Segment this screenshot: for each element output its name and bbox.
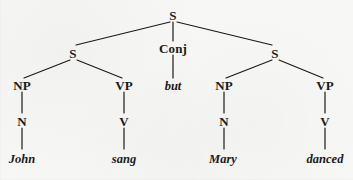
leaf-danced: danced	[307, 153, 344, 166]
edge-right-s-to-np	[226, 60, 272, 78]
node-right-n: N	[219, 115, 229, 128]
edge-root-to-right-s	[177, 22, 272, 45]
node-conj: Conj	[159, 42, 187, 55]
leaf-mary: Mary	[209, 153, 237, 166]
edge-left-s-to-np	[24, 60, 70, 78]
node-root-s: S	[169, 9, 176, 22]
edge-root-to-left-s	[76, 22, 170, 45]
node-left-n: N	[17, 115, 27, 128]
node-right-v: V	[320, 115, 330, 128]
node-right-vp: VP	[316, 79, 334, 92]
leaf-john: John	[9, 153, 35, 166]
node-right-np: NP	[215, 79, 233, 92]
syntax-tree-diagram: S S Conj S NP VP but NP VP N V N V John …	[0, 0, 353, 180]
node-left-s: S	[69, 47, 76, 60]
node-right-s: S	[271, 47, 278, 60]
leaf-but: but	[165, 80, 182, 93]
edge-left-s-to-vp	[77, 60, 122, 78]
node-left-v: V	[119, 115, 129, 128]
node-left-np: NP	[13, 79, 31, 92]
node-left-vp: VP	[115, 79, 133, 92]
leaf-sang: sang	[112, 153, 136, 166]
edge-right-s-to-vp	[279, 60, 323, 78]
